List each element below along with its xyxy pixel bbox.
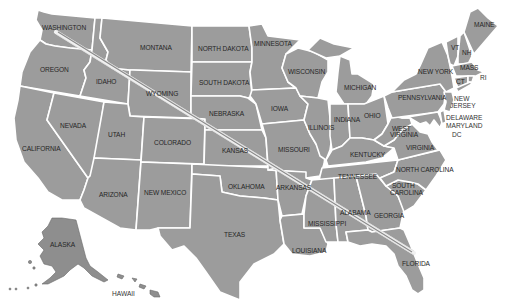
us-map: WASHINGTON OREGON CALIFORNIA IDAHO NEVAD…: [0, 0, 505, 307]
label-nevada: NEVADA: [60, 122, 87, 129]
label-minnesota: MINNESOTA: [254, 40, 293, 47]
aleutian-island: [27, 287, 29, 289]
label-new-jersey-line2: JERSEY: [450, 102, 476, 109]
label-dc: DC: [452, 131, 462, 138]
label-nebraska: NEBRASKA: [209, 110, 245, 117]
label-virginia: VIRGINIA: [406, 144, 435, 151]
label-oregon: OREGON: [40, 66, 69, 73]
label-north-carolina: NORTH CAROLINA: [396, 166, 454, 173]
aleutian-island: [35, 284, 37, 286]
aleutian-island: [33, 267, 35, 269]
label-new-york: NEW YORK: [418, 68, 454, 75]
label-tennessee: TENNESSEE: [338, 173, 378, 180]
label-new-mexico: NEW MEXICO: [144, 189, 186, 196]
label-arizona: ARIZONA: [99, 191, 128, 198]
label-indiana: INDIANA: [334, 116, 361, 123]
label-idaho: IDAHO: [96, 78, 116, 85]
state-new-york[interactable]: [392, 42, 454, 92]
label-texas: TEXAS: [224, 231, 246, 238]
label-kentucky: KENTUCKY: [350, 151, 386, 158]
hawaii-island: [132, 278, 137, 282]
label-alabama: ALABAMA: [340, 209, 371, 216]
label-maine: MAINE: [474, 21, 495, 28]
label-washington: WASHINGTON: [42, 24, 86, 31]
label-california: CALIFORNIA: [22, 145, 61, 152]
state-michigan[interactable]: [336, 56, 374, 104]
state-new-mexico[interactable]: [136, 162, 192, 230]
label-louisiana: LOUISIANA: [292, 247, 327, 254]
label-west-virginia-line2: VIRGINIA: [390, 131, 419, 138]
label-hawaii: HAWAII: [112, 290, 135, 297]
label-arkansas: ARKANSAS: [276, 184, 312, 191]
label-pennsylvania: PENNSYLVANIA: [398, 94, 447, 101]
hawaii-island: [139, 284, 146, 289]
state-alaska[interactable]: [38, 218, 108, 284]
label-delaware: DELAWARE: [446, 114, 483, 121]
label-oklahoma: OKLAHOMA: [228, 183, 265, 190]
aleutian-island: [28, 260, 31, 263]
label-illinois: ILLINOIS: [308, 124, 335, 131]
label-vermont: VT: [451, 44, 459, 51]
label-wyoming: WYOMING: [146, 90, 178, 97]
aleutian-island: [9, 288, 11, 290]
label-missouri: MISSOURI: [278, 146, 310, 153]
label-south-carolina-line1: SOUTH: [392, 182, 415, 189]
label-new-hampshire: NH: [462, 49, 472, 56]
label-montana: MONTANA: [140, 44, 172, 51]
label-mississippi: MISSISSIPPI: [308, 220, 346, 227]
label-colorado: COLORADO: [154, 139, 191, 146]
label-wisconsin: WISCONSIN: [288, 68, 326, 75]
label-florida: FLORIDA: [402, 260, 431, 267]
label-south-dakota: SOUTH DAKOTA: [199, 79, 250, 86]
state-north-dakota[interactable]: [192, 26, 252, 62]
label-kansas: KANSAS: [222, 147, 249, 154]
label-alaska: ALASKA: [50, 241, 76, 248]
label-georgia: GEORGIA: [374, 212, 405, 219]
label-rhode-island: RI: [480, 74, 487, 81]
label-north-dakota: NORTH DAKOTA: [198, 45, 249, 52]
aleutian-island: [15, 288, 17, 290]
state-rhode-island[interactable]: [468, 76, 474, 82]
hawaii-island: [117, 274, 124, 279]
label-ohio: OHIO: [364, 112, 380, 119]
label-iowa: IOWA: [271, 105, 289, 112]
label-massachusetts: MASS: [460, 64, 479, 71]
label-maryland: MARYLAND: [446, 122, 483, 129]
map-canvas: WASHINGTON OREGON CALIFORNIA IDAHO NEVAD…: [0, 0, 505, 307]
label-michigan: MICHIGAN: [344, 84, 377, 91]
label-south-carolina-line2: CAROLINA: [390, 189, 424, 196]
label-utah: UTAH: [108, 131, 125, 138]
label-connecticut: CT: [456, 78, 465, 85]
label-new-jersey-line1: NEW: [454, 95, 470, 102]
hawaii-island: [150, 290, 160, 297]
